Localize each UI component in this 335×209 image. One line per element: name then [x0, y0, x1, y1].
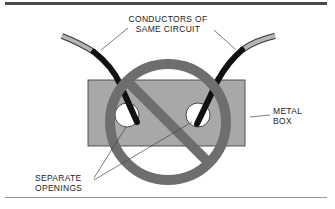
label-metal-box-line1: METAL — [273, 106, 302, 116]
label-metal-box: METAL BOX — [273, 106, 302, 126]
label-conductors-line2: SAME CIRCUIT — [118, 24, 218, 34]
label-openings-line1: SEPARATE — [35, 173, 82, 183]
label-openings-line2: OPENINGS — [35, 183, 82, 193]
label-separate-openings: SEPARATE OPENINGS — [35, 173, 82, 193]
bottom-rule — [5, 197, 327, 198]
label-conductors-line1: CONDUCTORS OF — [118, 14, 218, 24]
label-metal-box-line2: BOX — [273, 116, 302, 126]
leader-metal-box — [250, 115, 270, 117]
label-conductors: CONDUCTORS OF SAME CIRCUIT — [118, 14, 218, 34]
